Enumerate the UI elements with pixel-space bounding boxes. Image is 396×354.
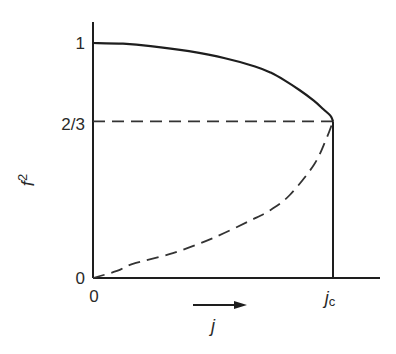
lower-branch-dashed-curve (93, 121, 333, 278)
y-axis-label: f2 (15, 174, 38, 186)
y-tick-2-3: 2/3 (61, 115, 85, 134)
x-tick-jc-subscript: c (329, 294, 336, 309)
x-direction-arrow (193, 301, 247, 309)
y-tick-1: 1 (76, 34, 85, 53)
upper-branch-solid-curve (93, 43, 333, 121)
x-tick-0: 0 (89, 287, 98, 306)
chart: 1 2/3 0 0 jc j f2 (0, 0, 396, 354)
y-axis-label-superscript: 2 (15, 174, 30, 181)
y-tick-0: 0 (76, 269, 85, 288)
x-axis-label: j (208, 316, 216, 336)
x-tick-jc: jc (322, 288, 336, 309)
